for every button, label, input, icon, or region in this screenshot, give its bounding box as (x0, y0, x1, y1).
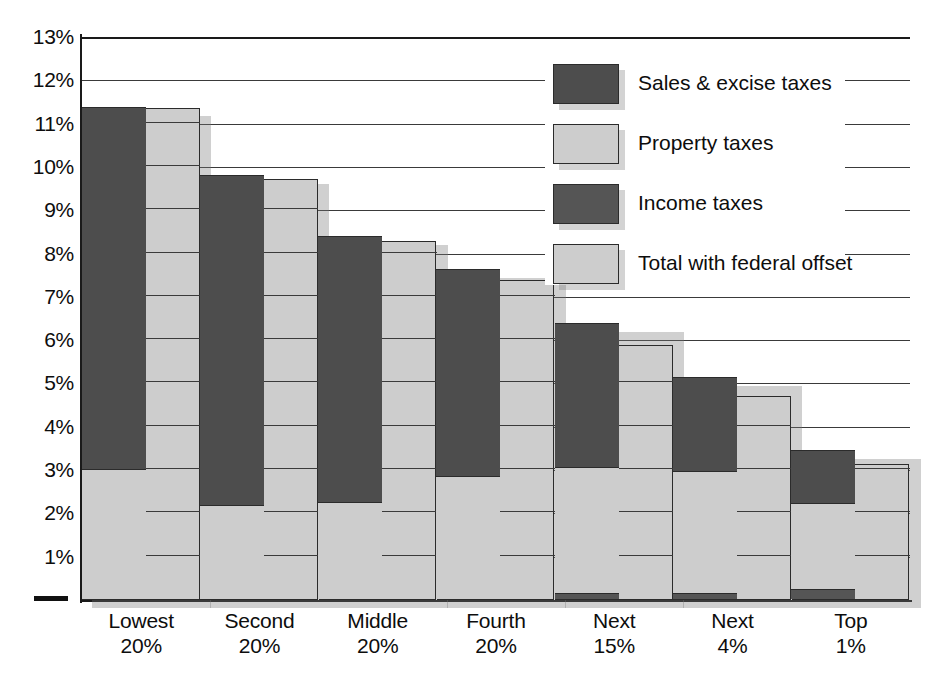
bar-federal-offset-top1[interactable] (853, 464, 909, 600)
inner-gridline (143, 555, 200, 556)
inner-gridline (143, 511, 200, 512)
inner-gridline (143, 252, 200, 253)
bar-federal-offset-fourth20[interactable] (498, 280, 554, 600)
inner-gridline (261, 425, 318, 426)
inner-gridline (143, 208, 200, 209)
inner-gridline (261, 252, 318, 253)
x-tick-label-line: Top (792, 608, 910, 633)
bar-federal-offset-next15[interactable] (617, 345, 673, 601)
inner-gridline (261, 381, 318, 382)
legend-item-property[interactable]: Property taxes (553, 118, 883, 178)
x-tick-label: Next15% (555, 608, 673, 658)
y-tick-label: 6% (8, 329, 74, 350)
bar-total-middle20[interactable] (319, 237, 382, 600)
inner-gridline (734, 425, 791, 426)
inner-gridline (498, 511, 555, 512)
inner-gridline (498, 381, 555, 382)
y-tick-label: 13% (8, 26, 74, 47)
y-tick-label: 1% (8, 546, 74, 567)
inner-gridline (261, 555, 318, 556)
legend-label-property: Property taxes (638, 130, 773, 156)
inner-gridline (616, 425, 673, 426)
inner-gridline (143, 468, 200, 469)
inner-gridline (498, 338, 555, 339)
segment-sales-excise-taxes (791, 450, 855, 503)
inner-gridline (616, 381, 673, 382)
bar-federal-offset-next4[interactable] (735, 396, 791, 600)
segment-property-taxes (673, 471, 737, 592)
x-tick-label-line: Next (555, 608, 673, 633)
bar-federal-offset-second20[interactable] (262, 179, 318, 600)
segment-income-taxes (791, 589, 855, 599)
inner-gridline (498, 555, 555, 556)
bar-total-top1[interactable] (792, 451, 855, 600)
inner-gridline (498, 425, 555, 426)
segment-income-taxes (555, 593, 619, 599)
legend-swatch-property (553, 124, 619, 164)
inner-gridline (143, 122, 200, 123)
bar-group (82, 37, 200, 600)
bar-group (437, 37, 555, 600)
x-tick-label: Lowest20% (82, 608, 200, 658)
x-tick-label-line: Fourth (437, 608, 555, 633)
tax-distribution-chart: 13%12%11%10%9%8%7%6%5%4%3%2%1% Lowest20%… (0, 0, 930, 693)
zero-baseline-dash (34, 596, 68, 601)
segment-property-taxes (82, 469, 146, 599)
x-tick-label-line: 20% (200, 633, 318, 658)
chart-legend: Sales & excise taxesProperty taxesIncome… (553, 58, 883, 298)
inner-gridline (734, 468, 791, 469)
legend-item-offset[interactable]: Total with federal offset (553, 238, 883, 298)
legend-label-offset: Total with federal offset (638, 250, 852, 276)
y-tick-label: 10% (8, 156, 74, 177)
segment-sales-excise-taxes (436, 269, 500, 476)
inner-gridline (143, 338, 200, 339)
x-tick-label-line: Middle (319, 608, 437, 633)
bar-total-next15[interactable] (555, 324, 618, 600)
inner-gridline (380, 252, 437, 253)
segment-property-taxes (318, 502, 382, 599)
segment-property-taxes (791, 503, 855, 590)
bar-total-fourth20[interactable] (437, 270, 500, 600)
y-tick-label: 8% (8, 243, 74, 264)
bar-total-next4[interactable] (673, 378, 736, 600)
bar-total-second20[interactable] (200, 176, 263, 600)
inner-gridline (853, 468, 910, 469)
y-tick-label: 2% (8, 502, 74, 523)
segment-property-taxes (436, 476, 500, 599)
x-tick-label-line: 20% (437, 633, 555, 658)
x-tick-label: Next4% (673, 608, 791, 658)
inner-gridline (498, 295, 555, 296)
y-tick-label: 5% (8, 372, 74, 393)
inner-gridline (261, 295, 318, 296)
inner-gridline (143, 381, 200, 382)
inner-gridline (261, 511, 318, 512)
inner-gridline (380, 468, 437, 469)
bar-federal-offset-middle20[interactable] (380, 241, 436, 600)
legend-item-income[interactable]: Income taxes (553, 178, 883, 238)
inner-gridline (380, 511, 437, 512)
legend-item-sales_excise[interactable]: Sales & excise taxes (553, 58, 883, 118)
segment-sales-excise-taxes (200, 175, 264, 504)
x-tick-label-line: 1% (792, 633, 910, 658)
x-tick-label: Middle20% (319, 608, 437, 658)
legend-label-sales_excise: Sales & excise taxes (638, 70, 832, 96)
inner-gridline (734, 511, 791, 512)
inner-gridline (380, 295, 437, 296)
bar-total-lowest20[interactable] (82, 108, 145, 600)
segment-income-taxes (673, 593, 737, 599)
bar-federal-offset-lowest20[interactable] (144, 108, 200, 600)
x-tick-label-line: Next (673, 608, 791, 633)
x-tick-label-line: 4% (673, 633, 791, 658)
inner-gridline (380, 555, 437, 556)
y-tick-label: 12% (8, 69, 74, 90)
y-tick-label: 9% (8, 199, 74, 220)
legend-swatch-income (553, 184, 619, 224)
inner-gridline (853, 555, 910, 556)
inner-gridline (616, 511, 673, 512)
legend-swatch-sales_excise (553, 64, 619, 104)
x-tick-label-line: Lowest (82, 608, 200, 633)
inner-gridline (380, 338, 437, 339)
y-tick-label: 7% (8, 286, 74, 307)
y-tick-label: 11% (8, 113, 74, 134)
inner-gridline (498, 468, 555, 469)
